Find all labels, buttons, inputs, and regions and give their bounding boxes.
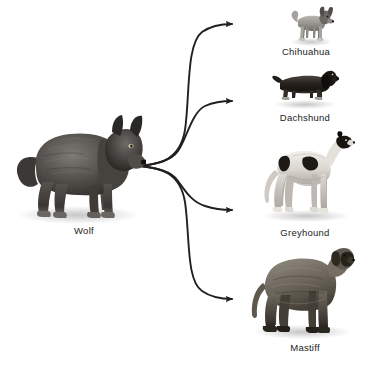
mastiff-illustration [249,243,355,337]
arrow-to-greyhound [140,166,232,210]
label-wolf: Wolf [74,225,94,236]
label-dachshund: Dachshund [280,112,330,123]
node-dachshund [271,64,339,110]
node-mastiff [249,243,355,341]
label-greyhound: Greyhound [280,227,329,238]
label-mastiff: Mastiff [290,342,320,353]
node-wolf [12,110,146,238]
node-chihuahua [288,6,334,46]
arrow-to-dachshund [140,101,232,166]
label-chihuahua: Chihuahua [282,46,330,57]
chihuahua-illustration [288,6,334,44]
dachshund-illustration [271,64,339,108]
node-greyhound [259,126,355,226]
greyhound-illustration [259,126,355,222]
artificial-selection-figure: Wolf [0,0,383,368]
arrow-to-chihuahua [140,24,232,166]
wolf-illustration [12,110,146,222]
arrow-to-mastiff [140,166,232,299]
